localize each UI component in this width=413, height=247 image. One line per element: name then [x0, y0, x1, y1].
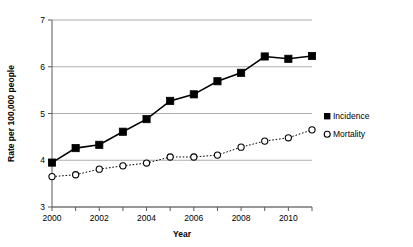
data-point-incidence-2004 — [143, 116, 150, 123]
x-tick-label-2000: 2000 — [43, 213, 62, 223]
y-axis-title: Rate per 100,000 people — [6, 65, 16, 162]
data-point-incidence-2009 — [261, 53, 268, 60]
data-point-mortality-2009 — [262, 138, 268, 144]
data-point-mortality-2001 — [73, 172, 79, 178]
data-point-mortality-2008 — [238, 144, 244, 150]
x-tick-label-2006: 2006 — [184, 213, 203, 223]
x-tick-label-2002: 2002 — [90, 213, 109, 223]
data-point-incidence-2001 — [72, 144, 79, 151]
y-tick-label-5: 5 — [40, 109, 45, 119]
data-point-incidence-2008 — [237, 69, 244, 76]
x-tick-label-2004: 2004 — [137, 213, 156, 223]
line-chart: 34567200020022004200620082010YearRate pe… — [0, 0, 413, 247]
data-point-mortality-2007 — [214, 152, 220, 158]
x-tick-label-2008: 2008 — [232, 213, 251, 223]
series-line-incidence — [52, 56, 312, 163]
legend-marker-mortality — [324, 131, 330, 137]
y-tick-label-7: 7 — [40, 15, 45, 25]
data-point-mortality-2003 — [120, 163, 126, 169]
data-point-mortality-2004 — [143, 160, 149, 166]
legend-label-mortality: Mortality — [333, 129, 366, 139]
data-point-incidence-2011 — [308, 52, 315, 59]
data-point-incidence-2007 — [214, 78, 221, 85]
data-point-incidence-2006 — [190, 91, 197, 98]
data-point-incidence-2010 — [285, 55, 292, 62]
legend-label-incidence: Incidence — [333, 111, 370, 121]
y-tick-label-4: 4 — [40, 155, 45, 165]
data-point-mortality-2000 — [49, 174, 55, 180]
chart-figure: 34567200020022004200620082010YearRate pe… — [0, 0, 413, 247]
data-point-incidence-2003 — [119, 128, 126, 135]
data-point-mortality-2005 — [167, 154, 173, 160]
legend-marker-incidence — [324, 113, 330, 119]
data-point-mortality-2002 — [96, 166, 102, 172]
data-point-mortality-2011 — [309, 127, 315, 133]
data-point-incidence-2002 — [96, 141, 103, 148]
data-point-mortality-2010 — [285, 135, 291, 141]
data-point-incidence-2000 — [48, 159, 55, 166]
series-line-mortality — [52, 130, 312, 177]
y-tick-label-3: 3 — [40, 202, 45, 212]
y-tick-label-6: 6 — [40, 62, 45, 72]
data-point-mortality-2006 — [191, 154, 197, 160]
x-axis-title: Year — [173, 229, 192, 239]
x-tick-label-2010: 2010 — [279, 213, 298, 223]
data-point-incidence-2005 — [167, 97, 174, 104]
